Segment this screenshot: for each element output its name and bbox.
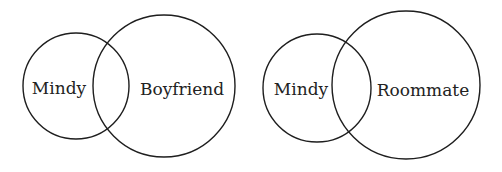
label-mindy-right: Mindy: [274, 79, 329, 99]
venn-diagrams-canvas: Mindy Boyfriend Mindy Roommate: [0, 0, 502, 172]
label-boyfriend: Boyfriend: [140, 79, 224, 99]
label-mindy-left: Mindy: [32, 78, 87, 98]
venn-diagram-mindy-roommate: Mindy Roommate: [263, 11, 480, 159]
label-roommate: Roommate: [377, 80, 470, 100]
venn-diagram-mindy-boyfriend: Mindy Boyfriend: [23, 15, 235, 157]
